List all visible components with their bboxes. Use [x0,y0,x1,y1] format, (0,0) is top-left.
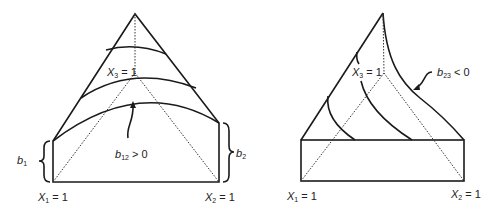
left-contour-bottom [53,103,219,141]
left-contour-middle [81,78,196,98]
b2-label: b2 [236,147,246,160]
right-contour-middle [328,96,355,140]
left-dotted-edge-1 [53,73,135,182]
left-x2-label: X2 = 1 [204,191,235,204]
left-contour-top [106,47,166,54]
right-dotted-edge-1 [301,73,384,181]
left-x1-label: X1 = 1 [37,191,68,204]
b1-label: b1 [17,154,27,167]
left-annotation-arrow [128,104,133,138]
right-base-rect [301,140,464,181]
left-diagram: X3 = 1 b12 > 0 b1 b2 X1 = 1 X2 = 1 [17,14,246,204]
b1-brace [39,141,50,182]
right-contour-lower [361,81,412,140]
left-dotted-edge-2 [135,73,219,182]
right-diagram: X3 = 1 b23 < 0 X1 = 1 X2 = 1 [286,13,481,203]
b2-brace [223,123,234,182]
arrowhead-icon [413,84,420,90]
left-annotation-label: b12 > 0 [115,148,148,161]
right-x3-label: X3 = 1 [351,66,382,79]
right-x2-label: X2 = 1 [450,188,481,201]
right-contour-top [357,52,359,64]
diagram-canvas: X3 = 1 b12 > 0 b1 b2 X1 = 1 X2 = 1 [0,0,496,211]
right-x1-label: X1 = 1 [286,190,317,203]
left-x3-label: X3 = 1 [106,66,137,79]
right-annotation-label: b23 < 0 [437,66,470,79]
